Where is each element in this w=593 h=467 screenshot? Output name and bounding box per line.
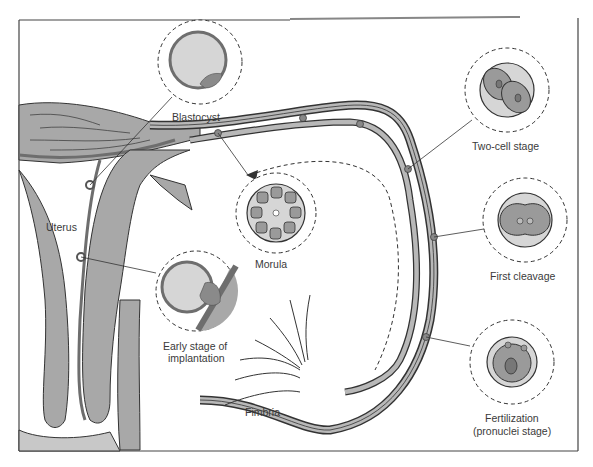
first-cleavage-label: First cleavage	[490, 270, 555, 282]
two-cell-illustration	[465, 48, 549, 132]
blastocyst-label: Blastocyst	[172, 111, 220, 123]
first-cleavage-illustration	[483, 178, 567, 262]
fimbria-label: Fimbria	[245, 406, 280, 418]
fertilization-label-line2: (pronuclei stage)	[473, 425, 551, 437]
fimbria	[225, 295, 310, 405]
uterus-label: Uterus	[46, 221, 77, 233]
implantation-label-line2: implantation	[168, 352, 225, 364]
diagram-canvas	[0, 0, 593, 467]
blastocyst-illustration	[158, 20, 242, 104]
fertilization-label-line1: Fertilization	[485, 412, 539, 424]
morula-label: Morula	[255, 258, 287, 270]
two-cell-stage-label: Two-cell stage	[472, 140, 539, 152]
implantation-label-line1: Early stage of	[163, 340, 227, 352]
morula-illustration	[236, 173, 316, 253]
implantation-illustration	[156, 251, 238, 331]
fertilization-illustration	[470, 320, 554, 404]
